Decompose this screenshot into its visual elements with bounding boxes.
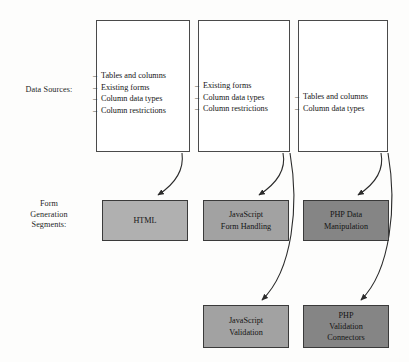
segment-box-javascript-form-handling-line-0: JavaScript [221,209,271,220]
bullet-dash-icon: – [93,105,101,117]
arrow-source1-to-javascript-form-handling [259,153,284,195]
segment-box-php-data-manipulation: PHP Data Manipulation [303,200,389,241]
data-source-item: – Tables and columns [295,91,401,103]
data-source-item-label: Column restrictions [203,103,268,115]
data-source-item-label: Tables and columns [303,91,368,103]
data-source-item-label: Column data types [303,103,364,115]
segment-box-php-data-manipulation-line-0: PHP Data [324,209,368,220]
data-source-item: – Column restrictions [195,103,303,115]
segment-box-php-validation-connectors: PHP Validation Connectors [303,305,389,348]
bullet-dash-icon: – [93,93,101,105]
row-label-form-generation-segments-line-2: Segments: [6,220,92,231]
segment-box-javascript-form-handling: JavaScript Form Handling [203,200,289,241]
data-source-item-label: Existing forms [203,80,251,92]
data-source-box-1-list: – Tables and columns – Existing forms – … [93,70,203,116]
data-source-box-1: – Tables and columns – Existing forms – … [96,20,190,152]
segment-box-php-validation-connectors-line-1: Validation [327,321,364,332]
data-source-item-label: Tables and columns [101,70,166,82]
segment-box-javascript-validation-line-1: Validation [229,327,263,338]
segment-box-javascript-validation-line-0: JavaScript [229,315,263,326]
data-source-item: – Column data types [295,103,401,115]
segment-box-php-data-manipulation-line-1: Manipulation [324,221,368,232]
row-label-data-sources: Data Sources: [6,85,92,96]
data-source-box-3: – Tables and columns – Column data types [298,20,388,152]
arrow-source2-to-php-data-manipulation [358,153,382,195]
data-source-item-label: Existing forms [101,82,149,94]
bullet-dash-icon: – [93,82,101,94]
data-source-item-label: Column restrictions [101,105,166,117]
row-label-form-generation-segments-line-1: Generation [6,210,92,221]
bullet-dash-icon: – [195,92,203,104]
segment-box-php-validation-connectors-line-2: Connectors [327,332,364,343]
data-source-item: – Existing forms [93,82,203,94]
arrow-source0-to-html [158,153,182,195]
bullet-dash-icon: – [195,80,203,92]
row-label-form-generation-segments-line-0: Form [6,199,92,210]
segment-box-php-validation-connectors-line-0: PHP [327,310,364,321]
bullet-dash-icon: – [295,103,303,115]
data-source-item: – Column data types [195,92,303,104]
segment-box-html: HTML [102,200,188,241]
bullet-dash-icon: – [93,70,101,82]
row-label-data-sources-line-0: Data Sources: [6,85,92,96]
data-source-box-3-list: – Tables and columns – Column data types [295,91,401,114]
row-label-form-generation-segments: Form Generation Segments: [6,199,92,231]
data-source-box-2: – Existing forms – Column data types – C… [198,20,290,152]
form-generation-flow-diagram: Data Sources: Form Generation Segments: … [0,0,409,362]
data-source-item: – Column restrictions [93,105,203,117]
bullet-dash-icon: – [295,91,303,103]
data-source-box-2-list: – Existing forms – Column data types – C… [195,80,303,115]
data-source-item-label: Column data types [203,92,264,104]
data-source-item: – Tables and columns [93,70,203,82]
segment-box-javascript-form-handling-line-1: Form Handling [221,221,271,232]
data-source-item-label: Column data types [101,93,162,105]
segment-box-html-line-0: HTML [133,215,156,226]
bullet-dash-icon: – [195,103,203,115]
data-source-item: – Column data types [93,93,203,105]
data-source-item: – Existing forms [195,80,303,92]
segment-box-javascript-validation: JavaScript Validation [203,305,289,348]
